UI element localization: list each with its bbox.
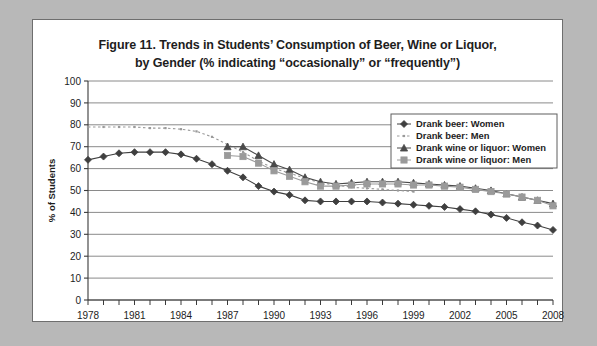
data-point-marker bbox=[255, 183, 262, 190]
data-point-marker bbox=[534, 222, 541, 229]
chart-plot-area: 0102030405060708090100% of Students19781… bbox=[33, 20, 564, 323]
data-point-marker bbox=[395, 181, 401, 187]
data-point-marker bbox=[149, 127, 151, 129]
data-point-marker bbox=[534, 197, 540, 203]
data-point-marker bbox=[426, 202, 433, 209]
x-tick-label: 1978 bbox=[77, 310, 100, 321]
x-tick-label: 2002 bbox=[449, 310, 472, 321]
data-point-marker bbox=[209, 161, 216, 168]
x-tick-label: 2008 bbox=[542, 310, 564, 321]
data-point-marker bbox=[426, 182, 432, 188]
data-point-marker bbox=[180, 128, 182, 130]
data-point-marker bbox=[240, 153, 246, 159]
data-point-marker bbox=[271, 168, 277, 174]
legend-line-sample-dot bbox=[403, 135, 405, 137]
y-tick-label: 90 bbox=[70, 98, 82, 109]
y-tick-label: 70 bbox=[70, 141, 82, 152]
data-point-marker bbox=[102, 126, 104, 128]
x-tick-label: 1996 bbox=[356, 310, 379, 321]
data-point-marker bbox=[133, 126, 135, 128]
data-point-marker bbox=[472, 186, 478, 192]
data-point-marker bbox=[503, 214, 510, 221]
data-point-marker bbox=[550, 226, 557, 233]
x-tick-label: 2005 bbox=[495, 310, 518, 321]
x-tick-label: 1999 bbox=[402, 310, 425, 321]
x-axis: 1978198119841987199019931996199920022005… bbox=[77, 300, 564, 321]
y-tick-label: 20 bbox=[70, 251, 82, 262]
data-point-marker bbox=[224, 152, 230, 158]
data-point-marker bbox=[333, 183, 339, 189]
y-tick-label: 80 bbox=[70, 119, 82, 130]
x-tick-label: 1984 bbox=[170, 310, 193, 321]
data-point-marker bbox=[503, 191, 509, 197]
data-point-marker bbox=[164, 127, 166, 129]
data-point-marker bbox=[395, 200, 402, 207]
x-tick-label: 1987 bbox=[216, 310, 239, 321]
data-point-marker bbox=[211, 136, 213, 138]
legend-item-label: Drank beer: Men bbox=[416, 130, 490, 141]
data-point-marker bbox=[255, 152, 262, 159]
data-point-marker bbox=[178, 151, 185, 158]
data-point-marker bbox=[286, 166, 293, 173]
data-point-marker bbox=[193, 155, 200, 162]
data-point-marker bbox=[162, 149, 169, 156]
data-point-marker bbox=[271, 188, 278, 195]
data-point-marker bbox=[348, 198, 355, 205]
data-point-marker bbox=[381, 188, 383, 190]
y-tick-label: 10 bbox=[70, 273, 82, 284]
data-point-marker bbox=[472, 208, 479, 215]
y-tick-label: 40 bbox=[70, 207, 82, 218]
data-point-marker bbox=[195, 130, 197, 132]
data-point-marker bbox=[333, 198, 340, 205]
data-point-marker bbox=[519, 194, 525, 200]
page-background: Figure 11. Trends in Students’ Consumpti… bbox=[0, 0, 597, 346]
data-point-marker bbox=[550, 203, 556, 209]
data-point-marker bbox=[519, 219, 526, 226]
x-tick-label: 1981 bbox=[123, 310, 146, 321]
data-point-marker bbox=[457, 184, 463, 190]
chart-legend: Drank beer: WomenDrank beer: MenDrank wi… bbox=[391, 114, 557, 168]
data-point-marker bbox=[302, 179, 308, 185]
y-tick-label: 100 bbox=[64, 76, 81, 87]
data-point-marker bbox=[412, 190, 414, 192]
data-point-marker bbox=[100, 153, 107, 160]
data-point-marker bbox=[366, 187, 368, 189]
y-tick-label: 30 bbox=[70, 229, 82, 240]
data-point-marker bbox=[379, 181, 385, 187]
data-point-marker bbox=[397, 189, 399, 191]
data-point-marker bbox=[364, 181, 370, 187]
data-point-marker bbox=[255, 160, 261, 166]
data-point-marker bbox=[441, 203, 448, 210]
data-point-marker bbox=[147, 149, 154, 156]
legend-item-label: Drank beer: Women bbox=[416, 118, 505, 129]
data-point-marker bbox=[116, 150, 123, 157]
figure-container: Figure 11. Trends in Students’ Consumpti… bbox=[32, 19, 563, 322]
data-point-marker bbox=[457, 206, 464, 213]
legend-item-label: Drank wine or liquor: Men bbox=[416, 154, 531, 165]
x-tick-label: 1993 bbox=[309, 310, 332, 321]
data-point-marker bbox=[317, 198, 324, 205]
legend-item-label: Drank wine or liquor: Women bbox=[416, 142, 546, 153]
data-point-marker bbox=[118, 126, 120, 128]
data-point-marker bbox=[488, 188, 494, 194]
x-tick-label: 1990 bbox=[263, 310, 286, 321]
data-point-marker bbox=[348, 182, 354, 188]
data-point-marker bbox=[286, 191, 293, 198]
data-point-marker bbox=[364, 198, 371, 205]
y-axis: 0102030405060708090100 bbox=[64, 76, 88, 306]
data-point-marker bbox=[240, 174, 247, 181]
y-tick-label: 0 bbox=[75, 295, 81, 306]
data-point-marker bbox=[242, 151, 244, 153]
data-point-marker bbox=[302, 197, 309, 204]
data-point-marker bbox=[131, 149, 138, 156]
data-point-marker bbox=[441, 183, 447, 189]
y-tick-label: 50 bbox=[70, 185, 82, 196]
line-chart: 0102030405060708090100% of Students19781… bbox=[33, 20, 564, 323]
data-point-marker bbox=[85, 156, 92, 163]
data-point-marker bbox=[401, 157, 407, 163]
data-point-marker bbox=[410, 182, 416, 188]
data-point-marker bbox=[317, 183, 323, 189]
data-point-marker bbox=[87, 126, 89, 128]
data-point-marker bbox=[270, 161, 277, 168]
y-tick-label: 60 bbox=[70, 163, 82, 174]
